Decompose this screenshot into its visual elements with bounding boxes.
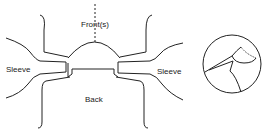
detail-stitch-curve	[232, 56, 256, 63]
back-neckline-outline	[68, 63, 118, 77]
garment-layout-diagram: Front(s) Sleeve Sleeve Back	[0, 0, 269, 134]
front-label: Front(s)	[81, 20, 109, 29]
front-dome-outline	[68, 42, 120, 58]
sleeve-left-label: Sleeve	[6, 65, 31, 74]
back-label: Back	[85, 95, 104, 104]
detail-seam-edge-lower	[209, 61, 241, 92]
detail-stitching-icon	[241, 47, 256, 58]
detail-seam-edge-upper	[205, 47, 241, 72]
back-left-side-outline	[38, 77, 70, 128]
sleeve-right-label: Sleeve	[157, 67, 182, 76]
back-right-side-outline	[116, 77, 148, 128]
seam-detail-inset	[203, 35, 261, 93]
left-front-panel-outline	[40, 15, 68, 57]
right-front-panel-outline	[120, 15, 152, 57]
